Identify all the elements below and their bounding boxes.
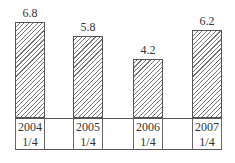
category-year: 2007 [192,120,222,135]
category-label-2005: 2005 1/4 [73,120,103,150]
category-quarter: 1/4 [73,135,103,150]
value-label-2006: 4.2 [128,44,168,56]
category-year: 2006 [133,120,163,135]
category-year: 2005 [73,120,103,135]
bar-chart: 6.8 5.8 4.2 6.2 2004 1/4 2005 1/4 2006 1… [0,0,235,163]
category-label-2004: 2004 1/4 [15,120,45,150]
value-label-2007: 6.2 [187,15,227,27]
bar-2005 [73,36,103,118]
bar-2007 [192,30,222,118]
value-label-2004: 6.8 [10,7,50,19]
category-label-2007: 2007 1/4 [192,120,222,150]
category-year: 2004 [15,120,45,135]
category-table [15,118,222,150]
category-quarter: 1/4 [15,135,45,150]
bar-2006 [133,59,163,118]
category-label-2006: 2006 1/4 [133,120,163,150]
category-quarter: 1/4 [133,135,163,150]
value-label-2005: 5.8 [68,21,108,33]
category-quarter: 1/4 [192,135,222,150]
bar-2004 [15,22,45,118]
